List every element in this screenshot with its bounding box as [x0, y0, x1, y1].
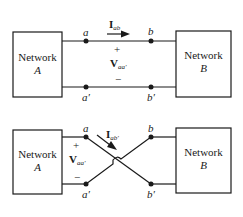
current-label-2: Iab′ — [106, 129, 119, 142]
voltage-symbol-2: V — [69, 153, 77, 165]
network-a-name-2: Network — [13, 148, 62, 161]
voltage-minus-2: − — [74, 172, 80, 183]
network-a-label-2: Network A — [13, 148, 62, 174]
network-a-label: Network A — [13, 51, 62, 77]
network-b-label: Network B — [176, 49, 231, 75]
current-subscript: ab — [113, 24, 120, 32]
node-a-prime-label: a′ — [82, 92, 90, 103]
network-b-letter-2: B — [176, 159, 231, 172]
voltage-plus-2: + — [73, 140, 79, 151]
network-b-name-2: Network — [176, 146, 231, 159]
voltage-symbol: V — [110, 57, 118, 69]
node-a — [84, 39, 89, 44]
node-a-label-2: a — [83, 123, 89, 134]
voltage-label-2: Vaa′ — [69, 154, 85, 167]
voltage-plus: + — [114, 44, 120, 55]
node-b-2 — [149, 135, 154, 140]
node-b-prime-label: b′ — [147, 92, 155, 103]
current-arrow-icon-2 — [107, 141, 117, 150]
node-a-prime-label-2: a′ — [82, 189, 90, 200]
voltage-subscript-2: aa′ — [77, 159, 86, 167]
network-b-label-2: Network B — [176, 146, 231, 172]
node-b-prime-2 — [149, 182, 154, 187]
node-b-label: b — [148, 26, 154, 37]
voltage-label: Vaa′ — [110, 58, 126, 71]
network-b-name: Network — [176, 49, 231, 62]
node-b — [149, 39, 154, 44]
node-b-prime-label-2: b′ — [147, 189, 155, 200]
node-a-prime — [84, 85, 89, 90]
voltage-minus: − — [115, 74, 121, 85]
node-a-2 — [84, 135, 89, 140]
voltage-subscript: aa′ — [118, 63, 127, 71]
node-b-label-2: b — [148, 123, 154, 134]
circuit-diagram — [0, 0, 243, 217]
network-a-name: Network — [13, 51, 62, 64]
network-b-letter: B — [176, 62, 231, 75]
network-a-letter: A — [13, 64, 62, 77]
node-a-prime-2 — [84, 182, 89, 187]
node-b-prime — [149, 85, 154, 90]
network-a-letter-2: A — [13, 161, 62, 174]
node-a-label: a — [83, 27, 89, 38]
current-arrow-icon — [121, 31, 130, 38]
current-subscript-2: ab′ — [110, 134, 119, 142]
current-label: Iab — [109, 19, 120, 32]
